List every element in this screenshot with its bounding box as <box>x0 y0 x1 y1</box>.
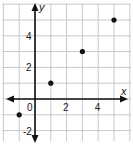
x-axis-left-arrow-icon <box>6 96 14 103</box>
y-tick-label: 2 <box>26 62 32 73</box>
scatter-plot: xy02442-2 <box>0 0 133 145</box>
tick-labels: xy02442-2 <box>23 1 127 137</box>
x-tick-label: 4 <box>95 102 101 113</box>
x-tick-label: 0 <box>27 102 33 113</box>
y-tick-label: 4 <box>26 31 32 42</box>
coordinate-plane: xy02442-2 <box>0 0 133 145</box>
data-point <box>80 49 85 54</box>
data-point <box>111 17 116 22</box>
y-axis-down-arrow-icon <box>32 135 39 143</box>
data-point <box>48 81 53 86</box>
y-axis-label: y <box>38 1 46 13</box>
data-point <box>17 112 22 117</box>
x-axis-label: x <box>120 85 127 97</box>
y-tick-label: -2 <box>23 126 32 137</box>
grid-lines <box>2 4 131 141</box>
x-tick-label: 2 <box>63 102 69 113</box>
